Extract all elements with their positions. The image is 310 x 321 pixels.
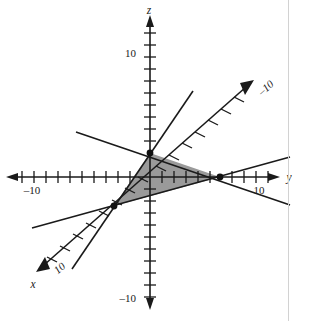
y-intercept-dot — [217, 174, 224, 181]
x-axis-arrow-positive — [36, 257, 50, 272]
z-axis-arrow-down — [146, 298, 154, 310]
coordinate-plot-svg: z y x 10 –10 10 –10 10 –10 — [0, 0, 310, 321]
z-axis-arrow-up — [146, 15, 154, 27]
x-intercept-dot — [111, 203, 118, 210]
z-axis-label: z — [146, 4, 152, 16]
y-axis-arrow-left — [6, 173, 18, 181]
z-axis-tick-label-negative: –10 — [119, 292, 137, 304]
x-axis-tick-label-negative: –10 — [255, 77, 276, 98]
x-axis-tick-label-positive: 10 — [51, 260, 68, 277]
page-edge-rule — [288, 0, 289, 321]
z-axis-tick-label-positive: 10 — [125, 47, 137, 59]
z-intercept-dot — [147, 150, 154, 157]
x-axis-arrow-negative — [240, 80, 254, 95]
y-axis-tick-label-positive: 10 — [254, 184, 266, 196]
y-axis-tick-label-negative: –10 — [23, 184, 41, 196]
y-axis-arrow-right — [268, 173, 280, 181]
figure-container: z y x 10 –10 10 –10 10 –10 — [0, 0, 310, 321]
x-axis-label: x — [29, 278, 36, 290]
